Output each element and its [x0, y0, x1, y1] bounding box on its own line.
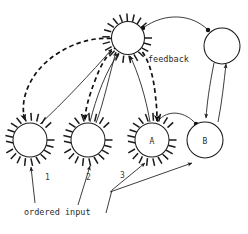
edge-input-to-node1: [31, 167, 35, 203]
edge-group-ordered-input: [31, 163, 192, 213]
edge-node2-to-topsun: [96, 52, 116, 123]
edge-group-top-link: [141, 17, 210, 32]
edge-nodea-to-nodeb: [157, 113, 196, 124]
node-b-label: B: [203, 137, 208, 146]
node-a-label: A: [150, 137, 155, 146]
node-b[interactable]: B: [187, 122, 223, 158]
node-a[interactable]: A: [127, 113, 176, 166]
edge-input-to-nodeb: [106, 190, 112, 213]
edge-group-upward: [40, 49, 150, 124]
node-input-2-circle[interactable]: [71, 123, 105, 157]
node-input-2[interactable]: [63, 113, 112, 166]
edge-nodeb-to-topright: [218, 64, 226, 122]
node-input-1[interactable]: [5, 113, 54, 166]
node-top-sun-circle[interactable]: [112, 22, 145, 55]
node-input-1-circle[interactable]: [13, 123, 47, 157]
diagram-canvas: A B feedback ordered input 1 2 3: [0, 0, 248, 234]
edge-topsun-to-topright: [143, 17, 208, 30]
edge-node2b-to-topsun: [90, 53, 119, 122]
edge-input-to-nodea: [112, 163, 145, 190]
input-3-label: 3: [120, 171, 125, 180]
input-1-label: 1: [45, 173, 50, 182]
input-2-label: 2: [86, 173, 91, 182]
edge-input-to-node2: [78, 166, 90, 205]
ordered-input-label: ordered input: [24, 207, 91, 217]
feedback-label: feedback: [148, 54, 189, 64]
edge-feedback-to-node2: [85, 44, 125, 120]
edge-topright-to-nodeb: [206, 63, 214, 118]
dot-topright-end: [206, 28, 210, 32]
edge-nodea-to-topsun: [130, 56, 150, 122]
edge-group-a-to-b: [157, 113, 198, 126]
node-top-right-circle[interactable]: [204, 28, 240, 64]
node-top-right[interactable]: [204, 28, 240, 64]
edge-group-topright-nodeb: [206, 63, 226, 122]
